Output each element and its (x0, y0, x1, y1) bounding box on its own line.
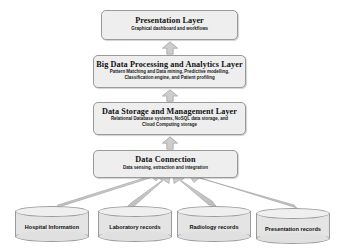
data-source-radiology-records[interactable]: Radiology records (177, 206, 251, 242)
layer-box-presentation[interactable]: Presentation Layer Graphical dashboard a… (101, 10, 238, 40)
layer-title-bigdata: Big Data Processing and Analytics Layer (96, 61, 242, 70)
layer-subtitle-storage: Relational Database systems, NoSQL data … (105, 117, 235, 127)
layer-title-presentation: Presentation Layer (135, 17, 204, 26)
layer-title-connection: Data Connection (135, 156, 195, 165)
arrow-connection-to-storage (161, 136, 179, 150)
cylinder-top-icon (256, 208, 330, 219)
cylinder-top-icon (177, 206, 251, 217)
data-source-presentation-records[interactable]: Presentation records (256, 208, 330, 244)
data-source-label-laboratory-records: Laboratory records (98, 218, 172, 236)
data-source-label-presentation-records: Presentation records (256, 220, 330, 238)
data-source-label-hospital-information: Hospital Information (15, 218, 89, 236)
layer-box-bigdata[interactable]: Big Data Processing and Analytics Layer … (93, 55, 246, 88)
layer-subtitle-presentation: Graphical dashboard and workflows (131, 27, 208, 32)
architecture-diagram: Presentation Layer Graphical dashboard a… (0, 0, 339, 250)
layer-box-connection[interactable]: Data Connection Data sensing, extraction… (93, 150, 238, 178)
layer-subtitle-bigdata: Pattern Matching and Data mining, Predic… (105, 70, 235, 80)
layer-title-storage: Data Storage and Management Layer (102, 108, 237, 117)
arrow-bigdata-to-presentation (161, 41, 179, 55)
arrow-storage-to-bigdata (161, 89, 179, 102)
layer-subtitle-connection: Data sensing, extraction and integration (123, 166, 208, 171)
data-source-label-radiology-records: Radiology records (177, 218, 251, 236)
cylinder-top-icon (98, 206, 172, 217)
layer-box-storage[interactable]: Data Storage and Management Layer Relati… (93, 102, 246, 135)
cylinder-top-icon (15, 206, 89, 217)
data-source-laboratory-records[interactable]: Laboratory records (98, 206, 172, 242)
data-source-hospital-information[interactable]: Hospital Information (15, 206, 89, 242)
